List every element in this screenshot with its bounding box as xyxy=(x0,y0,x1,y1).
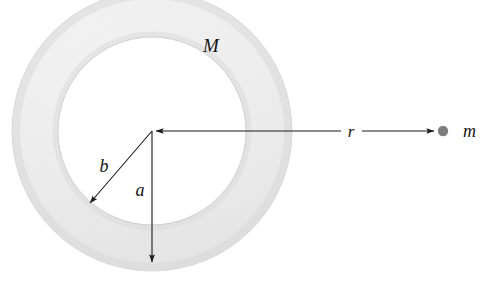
figure-canvas: M r m a b xyxy=(0,0,480,281)
annulus-gravitation-diagram: M r m a b xyxy=(0,0,480,281)
label-point-mass-m: m xyxy=(463,121,476,141)
annular-ring xyxy=(0,0,480,281)
label-mass-M: M xyxy=(202,35,220,56)
label-inner-radius-a: a xyxy=(136,180,145,200)
point-mass-dot xyxy=(438,126,448,136)
label-outer-radius-b: b xyxy=(100,156,109,176)
label-distance-r: r xyxy=(348,122,355,141)
